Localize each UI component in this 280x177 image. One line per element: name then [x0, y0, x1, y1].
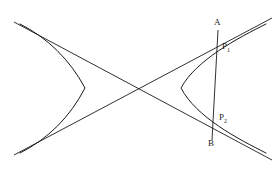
- point-label-p2-subscript: 2: [224, 118, 227, 124]
- point-label-b: B: [208, 139, 214, 148]
- point-label-p1: P1: [222, 42, 230, 53]
- asymptote-rising-line: [14, 18, 272, 155]
- point-label-a: A: [214, 18, 221, 27]
- point-label-p1-subscript: 1: [227, 47, 230, 53]
- hyperbola-left-branch: [20, 24, 85, 153]
- hyperbola-figure: A B P1 P2: [0, 0, 280, 177]
- figure-canvas: [0, 0, 280, 177]
- asymptote-falling-line: [14, 22, 272, 160]
- point-label-p2: P2: [219, 113, 227, 124]
